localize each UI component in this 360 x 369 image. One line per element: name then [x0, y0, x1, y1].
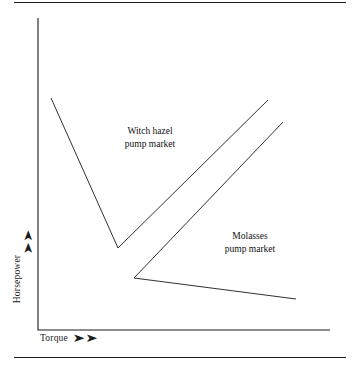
axis-lines [38, 18, 330, 330]
double-arrow-right-icon: ➤➤ [72, 332, 98, 344]
chart-svg [0, 8, 360, 338]
series-label-witch-hazel: Witch hazel pump market [98, 125, 202, 151]
series-label-molasses: Molasses pump market [198, 230, 302, 256]
top-horizontal-rule [14, 2, 346, 3]
x-axis-label: Torque ➤➤ [40, 332, 96, 344]
double-arrow-up-icon: ➤➤ [22, 229, 34, 254]
chart-plot-area: Witch hazel pump market Molasses pump ma… [0, 8, 360, 338]
x-axis-label-text: Torque [40, 333, 68, 343]
series-line-witch-hazel [51, 98, 268, 248]
bottom-horizontal-rule [14, 357, 346, 358]
y-axis-label: Horsepower [12, 231, 22, 327]
figure-container: Witch hazel pump market Molasses pump ma… [0, 0, 360, 369]
